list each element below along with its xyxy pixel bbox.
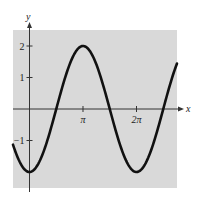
y-tick-label: 1 <box>20 72 25 83</box>
x-axis-label: x <box>185 103 191 114</box>
chart: π2π21−1 x y <box>0 0 203 205</box>
x-tick-label: 2π <box>131 114 142 125</box>
y-axis-arrow-icon <box>27 22 32 28</box>
y-tick-label: −1 <box>14 135 25 146</box>
y-axis-label: y <box>25 11 31 22</box>
x-axis-arrow-icon <box>178 107 184 112</box>
y-tick-label: 2 <box>20 41 25 52</box>
